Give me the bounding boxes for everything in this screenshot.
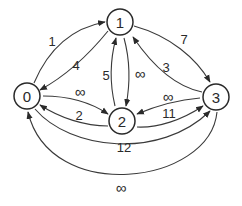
weight-1-2: ∞ xyxy=(135,65,146,82)
weight-0-2: ∞ xyxy=(75,83,86,100)
node-2-label: 2 xyxy=(118,113,126,130)
node-3-label: 3 xyxy=(212,89,220,106)
graph-canvas: 0 1 2 3 1 4 ∞ 2 5 ∞ 7 3 ∞ 11 12 ∞ xyxy=(0,0,242,206)
weight-0-1: 1 xyxy=(48,34,55,49)
node-1-label: 1 xyxy=(116,14,124,31)
node-0-label: 0 xyxy=(23,88,31,105)
weight-3-0: ∞ xyxy=(116,179,127,196)
node-3: 3 xyxy=(203,84,229,110)
edge-1-to-2 xyxy=(124,38,129,106)
edge-2-to-1 xyxy=(111,38,116,106)
weight-2-3: 11 xyxy=(162,106,176,121)
weight-3-1: 3 xyxy=(162,60,169,75)
weight-1-0: 4 xyxy=(72,58,79,73)
node-0: 0 xyxy=(14,83,40,109)
weight-0-3: 12 xyxy=(117,140,131,155)
node-1: 1 xyxy=(107,9,133,35)
edge-0-to-1 xyxy=(34,22,105,83)
node-2: 2 xyxy=(109,108,135,134)
weight-3-2: ∞ xyxy=(163,88,174,105)
weight-2-0: 2 xyxy=(75,108,82,123)
weight-1-3: 7 xyxy=(180,32,187,47)
weight-2-1: 5 xyxy=(102,68,109,83)
